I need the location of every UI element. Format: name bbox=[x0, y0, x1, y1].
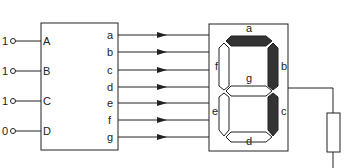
output-label: a bbox=[107, 29, 114, 41]
output-label: b bbox=[107, 46, 113, 58]
output-label: g bbox=[107, 131, 113, 143]
input-label: B bbox=[43, 65, 50, 77]
input-value: 1 bbox=[2, 65, 8, 77]
output-label: c bbox=[107, 64, 113, 76]
segment-f bbox=[219, 43, 229, 90]
input-terminal-icon bbox=[11, 99, 16, 104]
segment-label-c: c bbox=[281, 105, 287, 117]
decoder-seven-segment-diagram: 1 A 1 B 1 C 0 D a b c d bbox=[0, 0, 345, 168]
segment-c bbox=[268, 93, 278, 136]
segment-label-d: d bbox=[246, 135, 252, 147]
common-wire bbox=[288, 88, 333, 113]
input-label: C bbox=[43, 95, 51, 107]
segment-label-f: f bbox=[215, 60, 219, 72]
output-d: d bbox=[107, 81, 209, 93]
segment-a bbox=[226, 36, 272, 46]
output-c: c bbox=[107, 64, 209, 76]
input-terminal-icon bbox=[11, 39, 16, 44]
resistor-icon bbox=[327, 113, 340, 152]
output-f: f bbox=[108, 114, 209, 126]
output-label: f bbox=[108, 114, 112, 126]
input-value: 1 bbox=[2, 95, 8, 107]
input-value: 1 bbox=[2, 35, 8, 47]
input-B: 1 B bbox=[2, 65, 50, 77]
input-C: 1 C bbox=[2, 95, 51, 107]
segment-label-g: g bbox=[246, 72, 252, 84]
output-label: d bbox=[107, 81, 113, 93]
output-a: a bbox=[107, 29, 209, 41]
segment-label-b: b bbox=[281, 60, 287, 72]
output-g: g bbox=[107, 131, 209, 143]
input-label: A bbox=[43, 35, 51, 47]
input-A: 1 A bbox=[2, 35, 51, 47]
segment-e bbox=[219, 93, 229, 136]
segment-g bbox=[226, 86, 272, 96]
input-value: 0 bbox=[2, 125, 8, 137]
segment-label-a: a bbox=[246, 22, 253, 34]
output-label: e bbox=[107, 97, 113, 109]
output-e: e bbox=[107, 97, 209, 109]
input-terminal-icon bbox=[11, 69, 16, 74]
input-D: 0 D bbox=[2, 125, 51, 137]
segment-label-e: e bbox=[212, 105, 218, 117]
input-label: D bbox=[43, 125, 51, 137]
input-terminal-icon bbox=[11, 129, 16, 134]
segment-b bbox=[268, 43, 278, 90]
output-b: b bbox=[107, 46, 209, 58]
